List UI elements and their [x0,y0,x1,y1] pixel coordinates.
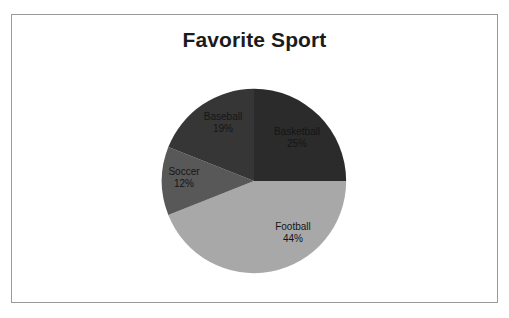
pie-chart: Basketball 25% Football 44% Soccer 12% B… [12,15,499,304]
pie-svg [159,86,349,276]
chart-frame: Favorite Sport Basketball 25% Football 4… [11,14,498,303]
pie-slices [162,89,346,273]
pie-slice-basketball[interactable] [254,89,346,181]
